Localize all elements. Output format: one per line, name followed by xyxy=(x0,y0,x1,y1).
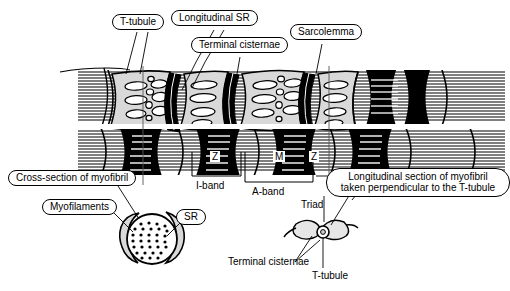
callout-longitudinal-section-line1: Longitudinal section of myofibril xyxy=(348,171,488,182)
sr-sleeve-4 xyxy=(314,71,358,130)
callout-sarcolemma[interactable]: Sarcolemma xyxy=(290,24,362,40)
callout-t-tubule-top[interactable]: T-tubule xyxy=(112,14,164,30)
band-label-z-right: Z xyxy=(309,151,319,162)
callout-longitudinal-section-line2: taken perpendicular to the T-tubule xyxy=(341,182,495,193)
band-label-m: M xyxy=(273,151,285,162)
myofibril-disc xyxy=(127,214,177,264)
callout-sr[interactable]: SR xyxy=(176,209,206,225)
sr-sleeve-3 xyxy=(240,70,304,130)
label-t-tubule-bottom: T-tubule xyxy=(312,270,348,281)
band-label-z-left: Z xyxy=(210,151,220,162)
label-triad: Triad xyxy=(301,199,323,210)
triad-inset xyxy=(284,220,358,239)
callout-longitudinal-section[interactable]: Longitudinal section of myofibril taken … xyxy=(326,168,510,197)
sr-sleeve-1 xyxy=(110,71,170,130)
callout-cross-section-of-myofibril[interactable]: Cross-section of myofibril xyxy=(8,170,136,186)
callout-myofilaments[interactable]: Myofilaments xyxy=(42,199,117,215)
row-gap xyxy=(78,124,505,129)
callout-longitudinal-sr[interactable]: Longitudinal SR xyxy=(171,10,258,26)
callout-terminal-cisternae-top[interactable]: Terminal cisternae xyxy=(191,37,288,53)
band-label-a-band: A-band xyxy=(252,186,284,197)
label-terminal-cisternae-bottom: Terminal cisternae xyxy=(228,256,309,267)
band-label-i-band: I-band xyxy=(196,180,224,191)
cross-section-inset xyxy=(120,212,185,264)
